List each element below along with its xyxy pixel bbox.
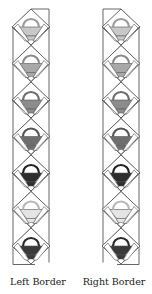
- left-border-diagram: [0, 0, 76, 272]
- left-border-label: Left Border: [0, 276, 76, 287]
- basket-block: [102, 228, 140, 264]
- strip-group: [102, 9, 140, 265]
- right-border-strip: [76, 0, 152, 272]
- right-border-diagram: [76, 0, 152, 272]
- basket-block: [12, 228, 50, 264]
- left-border-strip: [0, 0, 76, 272]
- strip-group: [12, 9, 50, 265]
- right-border-label: Right Border: [76, 276, 152, 287]
